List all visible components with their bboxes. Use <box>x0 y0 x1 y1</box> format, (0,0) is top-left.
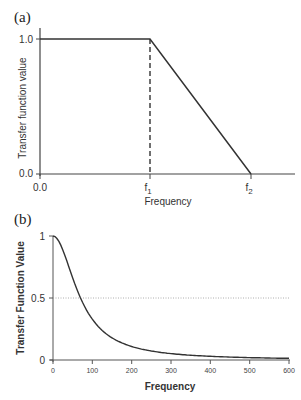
b-x-tick-label: 400 <box>204 367 216 374</box>
a-x-tick-label-f1: f1 <box>144 182 152 196</box>
figure: (a) 1.0 0.0 0.0 f1 f2 Frequency Transfer… <box>0 0 301 400</box>
b-transfer-curve <box>53 236 289 358</box>
a-transfer-line <box>40 39 251 174</box>
b-y-tick-label-1: 1 <box>39 231 45 242</box>
b-y-axis-label: Transfer Function Value <box>15 241 26 355</box>
b-x-tick-label: 600 <box>283 367 295 374</box>
panel-b: (b) 1 0.5 0 0 100 200 300 400 500 600 Fr… <box>14 211 295 392</box>
b-x-tick-label: 500 <box>244 367 256 374</box>
b-x-tick-label: 100 <box>86 367 98 374</box>
panel-a-label: (a) <box>14 9 31 26</box>
panel-a: (a) 1.0 0.0 0.0 f1 f2 Frequency Transfer… <box>14 9 295 207</box>
b-y-tick-label-05: 0.5 <box>31 293 45 304</box>
a-y-axis-label: Transfer function value <box>17 57 28 159</box>
b-x-tick-label: 0 <box>51 367 55 374</box>
b-x-axis-label: Frequency <box>145 381 196 392</box>
a-x-tick-label-f2: f2 <box>245 182 253 196</box>
b-x-tick-label: 300 <box>165 367 177 374</box>
a-x-tick-label-origin: 0.0 <box>33 182 47 193</box>
a-y-tick-label-bottom: 0.0 <box>19 168 33 179</box>
a-x-axis-label: Frequency <box>144 196 191 207</box>
b-x-tick-label: 200 <box>126 367 138 374</box>
panel-b-label: (b) <box>14 211 32 228</box>
a-y-tick-label-top: 1.0 <box>19 34 33 45</box>
b-y-tick-label-0: 0 <box>39 355 45 366</box>
b-x-ticks <box>53 360 289 364</box>
